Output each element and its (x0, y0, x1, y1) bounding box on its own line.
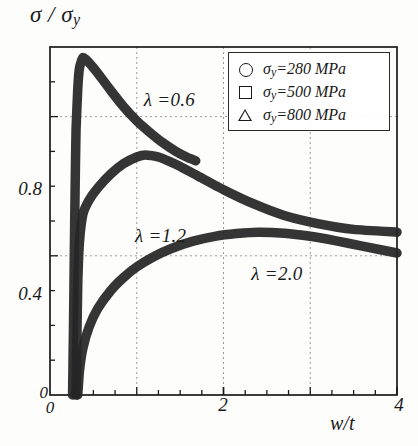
curve-label-lambda-1.2: λ =1.2 (135, 225, 186, 247)
legend-entry-800: σy=800 MPa (237, 104, 389, 127)
legend-label-280: σy=280 MPa (263, 60, 346, 80)
legend-entry-280: σy=280 MPa (237, 58, 389, 81)
curve-label-lambda-0.6: λ =0.6 (144, 89, 195, 111)
triangle-marker-icon (237, 108, 256, 123)
legend-sigma-2: σ (263, 106, 271, 123)
legend-value-1: =500 MPa (276, 83, 346, 100)
legend-label-800: σy=800 MPa (263, 106, 346, 126)
legend-value-2: =800 MPa (276, 106, 346, 123)
legend-sigma-1: σ (263, 83, 271, 100)
square-marker-icon (237, 85, 256, 100)
legend-sigma-0: σ (263, 60, 271, 77)
legend-label-500: σy=500 MPa (263, 83, 346, 103)
curve-label-lambda-2.0: λ =2.0 (251, 263, 302, 285)
legend-entry-500: σy=500 MPa (237, 81, 389, 104)
chart-figure: σ / σy w/t 0.8 0.4 0 0 2 4 λ =0.6 λ =1.2… (0, 0, 418, 446)
legend-value-0: =280 MPa (276, 60, 346, 77)
legend-box: σy=280 MPa σy=500 MPa σy=800 MPa (228, 52, 390, 131)
circle-marker-icon (237, 62, 256, 77)
curve-2.0 (78, 232, 397, 395)
